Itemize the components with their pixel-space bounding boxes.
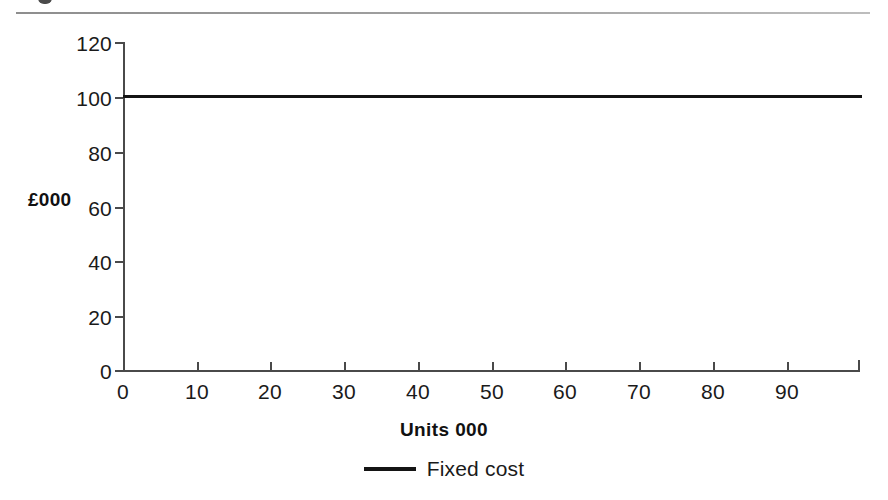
x-axis-tick-90 <box>787 362 789 371</box>
x-axis-label-30: 30 <box>314 381 374 403</box>
x-axis-title: Units 000 <box>0 419 888 440</box>
y-axis-label-40: 40 <box>22 252 112 273</box>
y-axis-line <box>123 42 125 372</box>
x-axis-label-90: 90 <box>757 381 817 403</box>
x-axis-label-0: 0 <box>93 381 153 403</box>
x-axis-tick-80 <box>713 362 715 371</box>
y-axis-tick-0 <box>115 370 123 372</box>
x-axis-label-20: 20 <box>240 381 300 403</box>
x-axis-label-10: 10 <box>167 381 227 403</box>
legend-item-fixed-cost[interactable]: Fixed cost <box>364 458 525 480</box>
y-axis-label-100: 100 <box>22 88 112 109</box>
x-axis-tick-40 <box>418 362 420 371</box>
x-axis-tick-0 <box>123 362 125 371</box>
y-axis-label-20: 20 <box>22 307 112 328</box>
y-axis-label-0: 0 <box>22 361 112 382</box>
x-axis-tick-60 <box>565 362 567 371</box>
x-axis-label-70: 70 <box>609 381 669 403</box>
chart-legend: Fixed cost <box>0 458 888 480</box>
y-axis-tick-100 <box>115 97 123 99</box>
x-axis-tick-10 <box>197 362 199 371</box>
legend-item-label: Fixed cost <box>427 458 525 480</box>
y-axis-tick-60 <box>115 207 123 209</box>
figure-root: 120 100 80 60 40 20 0 0 10 20 30 40 50 6… <box>0 0 888 500</box>
y-axis-tick-120 <box>115 42 123 44</box>
x-axis-label-80: 80 <box>683 381 743 403</box>
x-axis-tick-50 <box>492 362 494 371</box>
series-line-fixed-cost <box>123 95 862 98</box>
y-axis-tick-40 <box>115 261 123 263</box>
legend-line-swatch-icon <box>364 467 416 471</box>
y-axis-tick-20 <box>115 316 123 318</box>
x-axis-tick-30 <box>344 362 346 371</box>
line-chart: 120 100 80 60 40 20 0 0 10 20 30 40 50 6… <box>0 0 888 500</box>
x-axis-tick-20 <box>270 362 272 371</box>
x-axis-tick-100-end <box>858 360 860 371</box>
y-axis-tick-80 <box>115 152 123 154</box>
x-axis-tick-70 <box>639 362 641 371</box>
y-axis-label-80: 80 <box>22 143 112 164</box>
x-axis-label-40: 40 <box>388 381 448 403</box>
y-axis-title: £000 <box>28 190 71 210</box>
x-axis-label-60: 60 <box>535 381 595 403</box>
y-axis-label-120: 120 <box>22 33 112 54</box>
x-axis-label-50: 50 <box>462 381 522 403</box>
